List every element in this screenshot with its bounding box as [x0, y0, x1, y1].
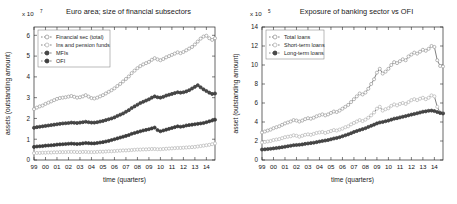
- x-axis-label: time (quarters): [331, 176, 374, 184]
- svg-text:04: 04: [316, 163, 323, 170]
- svg-text:09: 09: [145, 163, 152, 170]
- y-exponent-label: x 105: [250, 9, 271, 18]
- svg-text:10: 10: [251, 61, 259, 68]
- chart-legend[interactable]: Total loansShort-term loansLong-term loa…: [266, 30, 325, 59]
- svg-text:3: 3: [26, 94, 30, 101]
- svg-text:06: 06: [111, 163, 118, 170]
- svg-text:4: 4: [254, 118, 258, 125]
- svg-text:13: 13: [191, 163, 198, 170]
- x-axis-label: time (quarters): [103, 176, 146, 184]
- svg-text:05: 05: [100, 163, 107, 170]
- svg-text:7: 7: [40, 9, 43, 14]
- svg-text:07: 07: [350, 163, 357, 170]
- legend-label: Ins and pension funds: [56, 42, 110, 48]
- legend-label: Long-term loans: [284, 50, 324, 56]
- svg-text:14: 14: [251, 23, 259, 30]
- legend-label: OFI: [56, 58, 66, 64]
- svg-text:12: 12: [408, 163, 415, 170]
- chart-panel-left: Euro area; size of financial subsectorsx…: [0, 0, 228, 204]
- svg-text:99: 99: [259, 163, 266, 170]
- chart-title: Euro area; size of financial subsectors: [66, 7, 191, 16]
- svg-text:10: 10: [385, 163, 392, 170]
- svg-text:08: 08: [362, 163, 369, 170]
- svg-text:00: 00: [42, 163, 49, 170]
- svg-text:13: 13: [419, 163, 426, 170]
- svg-text:01: 01: [54, 163, 61, 170]
- svg-text:11: 11: [169, 163, 176, 170]
- svg-text:x 10: x 10: [22, 10, 34, 17]
- series-2: [260, 109, 444, 151]
- svg-text:14: 14: [431, 163, 438, 170]
- legend-label: Financial sec (total): [56, 34, 104, 40]
- svg-text:4: 4: [26, 73, 30, 80]
- svg-text:5: 5: [268, 9, 271, 14]
- chart-legend[interactable]: Financial sec (total)Ins and pension fun…: [38, 30, 110, 67]
- chart-panel-right: Exposure of banking sector vs OFIx 10502…: [228, 0, 456, 204]
- y-axis-label: assets (outstanding amount): [4, 52, 12, 135]
- svg-text:2: 2: [26, 115, 30, 122]
- series-2: [32, 84, 216, 130]
- svg-text:04: 04: [88, 163, 95, 170]
- svg-text:00: 00: [270, 163, 277, 170]
- svg-text:06: 06: [339, 163, 346, 170]
- svg-text:03: 03: [305, 163, 312, 170]
- chart-svg: Exposure of banking sector vs OFIx 10502…: [228, 0, 456, 204]
- svg-text:6: 6: [254, 99, 258, 106]
- chart-svg: Euro area; size of financial subsectorsx…: [0, 0, 228, 204]
- svg-text:08: 08: [134, 163, 141, 170]
- svg-text:02: 02: [65, 163, 72, 170]
- svg-text:03: 03: [77, 163, 84, 170]
- svg-text:99: 99: [31, 163, 38, 170]
- figure-row: Euro area; size of financial subsectorsx…: [0, 0, 457, 204]
- svg-text:1: 1: [26, 136, 30, 143]
- svg-text:01: 01: [282, 163, 289, 170]
- y-exponent-label: x 107: [22, 9, 43, 18]
- svg-text:14: 14: [203, 163, 210, 170]
- svg-text:x 10: x 10: [250, 10, 262, 17]
- svg-text:2: 2: [254, 137, 258, 144]
- legend-label: MFIs: [56, 50, 68, 56]
- chart-title: Exposure of banking sector vs OFI: [300, 7, 413, 16]
- svg-text:5: 5: [26, 52, 30, 59]
- svg-text:02: 02: [293, 163, 300, 170]
- legend-label: Total loans: [284, 34, 311, 40]
- svg-text:11: 11: [397, 163, 404, 170]
- svg-text:09: 09: [373, 163, 380, 170]
- legend-label: Short-term loans: [284, 42, 325, 48]
- svg-text:10: 10: [157, 163, 164, 170]
- svg-text:05: 05: [328, 163, 335, 170]
- svg-text:12: 12: [251, 42, 259, 49]
- svg-text:12: 12: [180, 163, 187, 170]
- svg-text:8: 8: [254, 80, 258, 87]
- svg-text:6: 6: [26, 32, 30, 39]
- y-axis-label: asset (outstanding amount): [232, 54, 240, 134]
- svg-text:07: 07: [122, 163, 129, 170]
